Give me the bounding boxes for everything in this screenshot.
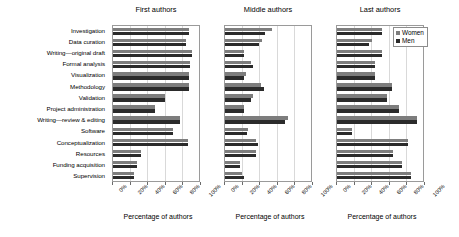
bar-men <box>337 76 375 79</box>
bar-women <box>225 150 256 153</box>
bar-group <box>113 37 199 48</box>
bar-women <box>337 50 382 53</box>
bar-group <box>113 48 199 59</box>
bar-men <box>337 165 402 168</box>
bar-women <box>337 150 393 153</box>
x-axis-tick-labels: 0%20%40%60%80%100% <box>336 184 424 208</box>
legend-item-women: Women <box>396 30 424 36</box>
bar-men <box>113 154 141 157</box>
bar-group <box>225 92 311 103</box>
bar-men <box>113 143 188 146</box>
bar-men <box>225 176 244 179</box>
legend-swatch-women-icon <box>396 31 400 35</box>
panel-title: Middle authors <box>224 6 312 13</box>
bar-women <box>337 61 375 64</box>
bar-group <box>113 92 199 103</box>
bar-group <box>225 148 311 159</box>
bar-group <box>225 70 311 81</box>
bar-women <box>113 116 180 119</box>
category-label: Formal analysis <box>0 59 108 70</box>
category-label: Investigation <box>0 25 108 36</box>
bar-women <box>225 61 251 64</box>
x-axis-tick-label: 60% <box>284 184 296 196</box>
bar-men <box>225 87 264 90</box>
bar-men <box>113 65 190 68</box>
bar-group <box>337 104 423 115</box>
x-axis-tick-label: 20% <box>249 184 261 196</box>
panel-title: Last authors <box>336 6 424 13</box>
bar-men <box>113 32 189 35</box>
bar-men <box>337 43 369 46</box>
bar-group <box>225 59 311 70</box>
category-label: Software <box>0 126 108 137</box>
x-axis-tick-label: 40% <box>266 184 278 196</box>
bar-men <box>225 154 256 157</box>
bar-group <box>337 170 423 181</box>
bar-men <box>225 165 240 168</box>
bar-women <box>337 139 408 142</box>
bar-women <box>113 128 173 131</box>
bar-men <box>225 76 244 79</box>
bar-women <box>225 172 242 175</box>
bar-men <box>337 120 417 123</box>
bar-groups <box>225 26 311 181</box>
category-label: Validation <box>0 92 108 103</box>
bar-group <box>225 37 311 48</box>
category-label: Project administration <box>0 104 108 115</box>
bar-group <box>337 81 423 92</box>
bar-groups <box>113 26 199 181</box>
bar-men <box>225 109 244 112</box>
bar-men <box>225 43 259 46</box>
bar-women <box>113 150 141 153</box>
bar-group <box>113 148 199 159</box>
bar-men <box>337 87 392 90</box>
bar-women <box>225 72 246 75</box>
x-axis-tick-label: 0% <box>118 184 128 194</box>
bar-women <box>113 94 165 97</box>
category-label: Writing—original draft <box>0 47 108 58</box>
bar-men <box>113 165 137 168</box>
bar-group <box>225 170 311 181</box>
bar-men <box>113 54 192 57</box>
x-axis-tick <box>312 182 313 185</box>
category-label: Writing—review & editing <box>0 115 108 126</box>
bar-men <box>337 176 411 179</box>
bar-men <box>225 65 253 68</box>
bar-group <box>113 59 199 70</box>
bar-men <box>337 109 399 112</box>
bar-men <box>225 32 265 35</box>
bar-men <box>113 120 180 123</box>
bar-men <box>113 87 189 90</box>
bar-women <box>225 94 253 97</box>
bar-women <box>113 61 190 64</box>
bar-women <box>113 83 189 86</box>
x-axis-tick-label: 60% <box>396 184 408 196</box>
bar-women <box>337 72 375 75</box>
bar-women <box>337 128 352 131</box>
x-axis-tick-label: 80% <box>302 184 314 196</box>
x-axis-title: Percentage of authors <box>106 213 210 220</box>
bar-group <box>225 115 311 126</box>
legend-swatch-men-icon <box>396 39 400 43</box>
panel-middle-authors: Middle authors0%20%40%60%80%100%Percenta… <box>220 0 324 237</box>
bar-women <box>225 116 288 119</box>
bar-women <box>225 128 248 131</box>
x-axis-title: Percentage of authors <box>218 213 322 220</box>
figure-grouped-bar-chart: InvestigationData curationWriting—origin… <box>0 0 459 237</box>
x-axis-tick-label: 100% <box>432 184 446 198</box>
category-label: Data curation <box>0 36 108 47</box>
bar-women <box>225 50 244 53</box>
x-axis-tick-label: 0% <box>230 184 240 194</box>
legend: Women Men <box>393 27 428 47</box>
bar-women <box>337 39 372 42</box>
category-label: Methodology <box>0 81 108 92</box>
category-label: Supervision <box>0 171 108 182</box>
bar-group <box>225 126 311 137</box>
bar-group <box>225 81 311 92</box>
bar-women <box>225 161 240 164</box>
bar-group <box>113 115 199 126</box>
bar-group <box>337 59 423 70</box>
bar-women <box>225 83 261 86</box>
bar-group <box>225 159 311 170</box>
bar-group <box>337 70 423 81</box>
